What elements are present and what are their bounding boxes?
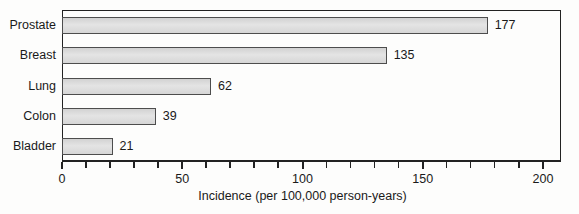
x-minor-tick	[518, 162, 520, 168]
bar-prostate	[62, 17, 488, 34]
x-minor-tick	[253, 162, 255, 168]
bar-colon	[62, 108, 156, 125]
x-minor-tick	[446, 162, 448, 168]
x-minor-tick	[157, 162, 159, 168]
x-major-tick	[542, 162, 544, 169]
x-major-tick	[61, 162, 63, 169]
x-minor-tick	[109, 162, 111, 168]
x-tick-label: 200	[533, 172, 554, 186]
x-minor-tick	[133, 162, 135, 168]
x-minor-tick	[398, 162, 400, 168]
x-tick-label: 50	[175, 172, 189, 186]
x-minor-tick	[350, 162, 352, 168]
incidence-bar-chart: 177Prostate135Breast62Lung39Colon21Bladd…	[0, 0, 579, 214]
bar-lung	[62, 78, 211, 95]
x-minor-tick	[470, 162, 472, 168]
bar-value-label: 39	[163, 108, 177, 125]
category-label-prostate: Prostate	[0, 17, 56, 34]
category-label-lung: Lung	[0, 78, 56, 95]
category-label-breast: Breast	[0, 47, 56, 64]
x-minor-tick	[494, 162, 496, 168]
category-label-colon: Colon	[0, 108, 56, 125]
x-major-tick	[181, 162, 183, 169]
bar-value-label: 21	[120, 138, 134, 155]
x-major-tick	[302, 162, 304, 169]
bar-value-label: 177	[495, 17, 516, 34]
category-label-bladder: Bladder	[0, 138, 56, 155]
x-minor-tick	[85, 162, 87, 168]
x-tick-label: 100	[292, 172, 313, 186]
x-minor-tick	[326, 162, 328, 168]
x-axis-title: Incidence (per 100,000 person-years)	[62, 189, 543, 203]
bar-bladder	[62, 138, 113, 155]
x-minor-tick	[374, 162, 376, 168]
x-tick-label: 0	[59, 172, 66, 186]
bar-value-label: 62	[218, 78, 232, 95]
bar-breast	[62, 47, 387, 64]
x-tick-label: 150	[412, 172, 433, 186]
x-minor-tick	[229, 162, 231, 168]
x-major-tick	[422, 162, 424, 169]
x-minor-tick	[205, 162, 207, 168]
x-minor-tick	[277, 162, 279, 168]
bar-value-label: 135	[394, 47, 415, 64]
